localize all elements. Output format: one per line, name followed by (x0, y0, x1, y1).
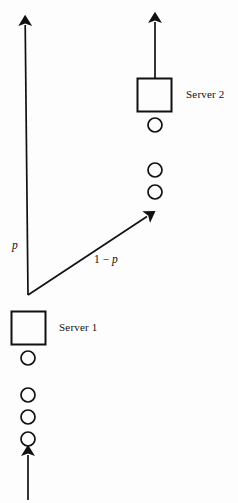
server1-queue-circle (21, 351, 35, 365)
server2-box (138, 79, 172, 112)
branch-probability-p-label: p (12, 240, 18, 252)
server1-queue-circle (21, 388, 35, 402)
server2-label: Server 2 (186, 89, 225, 100)
server2-queue-circle (148, 118, 162, 132)
server1-queue-circle (21, 410, 35, 424)
server2-queue-circle (148, 185, 162, 199)
server1-label: Server 1 (59, 322, 98, 333)
branch-p-arrow (25, 25, 28, 295)
server1-box (12, 312, 46, 345)
server2-queue-circle (148, 163, 162, 177)
branch-probability-one-minus-p-label: 1 − p (94, 254, 118, 266)
diagram-canvas (0, 0, 238, 503)
one-minus-prefix: 1 − (94, 253, 112, 265)
queueing-network-figure: Server 2 Server 1 p 1 − p (0, 0, 238, 503)
branch-one-minus-p-arrow (28, 217, 147, 296)
one-minus-variable: p (112, 253, 118, 265)
server1-queue-circle (21, 432, 35, 446)
